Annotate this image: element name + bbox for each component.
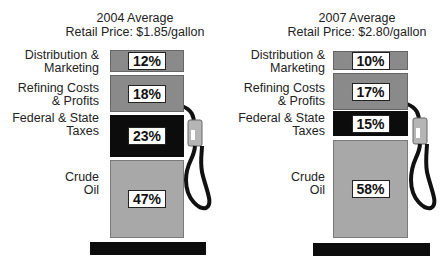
segment-taxes: 23% — [110, 115, 184, 157]
segment-refining: 17% — [333, 73, 408, 110]
segment-distribution: 12% — [110, 50, 184, 72]
title-year: 2004 Average — [60, 11, 210, 25]
segment-distribution: 10% — [333, 51, 408, 70]
segment-refining: 18% — [110, 75, 184, 112]
label-refining: Refining Costs& Profits — [0, 82, 99, 108]
pct-refining: 18% — [128, 85, 166, 103]
segment-crude: 47% — [110, 160, 184, 238]
title-price: Retail Price: $1.85/gallon — [60, 25, 210, 39]
label-crude: CrudeOil — [215, 171, 325, 197]
pct-crude: 58% — [351, 180, 389, 198]
pump-base — [313, 243, 430, 256]
segment-crude: 58% — [333, 140, 408, 238]
title-year: 2007 Average — [277, 11, 437, 25]
pump-2004: 2004 Average Retail Price: $1.85/gallon … — [0, 0, 222, 263]
pct-taxes: 23% — [128, 127, 166, 145]
pump-2007: 2007 Average Retail Price: $2.80/gallon … — [222, 0, 445, 263]
pct-refining: 17% — [351, 83, 389, 101]
label-distribution: Distribution &Marketing — [0, 49, 99, 75]
label-crude: CrudeOil — [0, 171, 99, 197]
title-price: Retail Price: $2.80/gallon — [277, 25, 437, 39]
label-taxes: Federal & StateTaxes — [215, 112, 325, 138]
pct-taxes: 15% — [351, 115, 389, 133]
segment-taxes: 15% — [333, 111, 408, 136]
pct-distribution: 10% — [351, 52, 389, 70]
pct-crude: 47% — [128, 190, 166, 208]
pump-hose-icon — [405, 100, 445, 220]
pump-base — [90, 242, 206, 255]
label-distribution: Distribution &Marketing — [215, 49, 325, 75]
label-refining: Refining Costs& Profits — [215, 82, 325, 108]
title-2004: 2004 Average Retail Price: $1.85/gallon — [60, 11, 210, 39]
pct-distribution: 12% — [128, 52, 166, 70]
label-taxes: Federal & StateTaxes — [0, 112, 99, 138]
title-2007: 2007 Average Retail Price: $2.80/gallon — [277, 11, 437, 39]
